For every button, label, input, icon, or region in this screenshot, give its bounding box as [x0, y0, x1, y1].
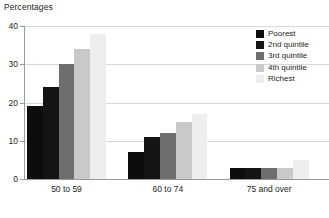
bar: [128, 152, 144, 179]
legend-item[interactable]: 4th quintile: [256, 62, 309, 73]
bar: [144, 137, 160, 179]
y-axis-tick-label: 40: [0, 21, 18, 31]
y-axis-tick-label: 20: [0, 98, 18, 108]
bar: [261, 168, 277, 179]
legend-swatch-icon: [256, 75, 264, 83]
legend-item-label: Richest: [268, 75, 295, 83]
bar-group: [27, 26, 106, 179]
legend-item-label: 3rd quintile: [268, 52, 307, 60]
legend-item-label: Poorest: [268, 30, 296, 38]
x-axis-tick-label: 75 and over: [230, 184, 309, 194]
legend-item[interactable]: 2nd quintile: [256, 39, 309, 50]
x-axis-line: [20, 179, 329, 180]
bar: [59, 64, 75, 179]
bar-group: [128, 26, 207, 179]
legend-swatch-icon: [256, 64, 264, 72]
bar: [277, 168, 293, 179]
bar: [176, 122, 192, 179]
legend-swatch-icon: [256, 41, 264, 49]
y-axis-tick-mark: [20, 64, 25, 65]
bar: [74, 49, 90, 179]
bar: [160, 133, 176, 179]
bar: [245, 168, 261, 179]
bar-chart: Percentages 010203040 Poorest2nd quintil…: [0, 0, 329, 218]
bar: [27, 106, 43, 179]
legend-item-label: 4th quintile: [268, 64, 307, 72]
x-axis-tick-label: 60 to 74: [128, 184, 207, 194]
y-axis-tick-label: 0: [0, 174, 18, 184]
y-axis-tick-mark: [20, 103, 25, 104]
legend-swatch-icon: [256, 30, 264, 38]
y-axis-tick-mark: [20, 26, 25, 27]
y-axis-tick-labels: 010203040: [0, 26, 18, 180]
x-axis-tick-label: 50 to 59: [27, 184, 106, 194]
y-axis-tick-label: 10: [0, 136, 18, 146]
legend-item[interactable]: 3rd quintile: [256, 51, 309, 62]
bar: [90, 34, 106, 179]
legend-item[interactable]: Richest: [256, 74, 309, 85]
bar: [293, 160, 309, 179]
legend-item[interactable]: Poorest: [256, 28, 309, 39]
legend-item-label: 2nd quintile: [268, 41, 309, 49]
bar: [230, 168, 246, 179]
bar: [43, 87, 59, 179]
y-axis-tick-mark: [20, 141, 25, 142]
y-axis-tick-label: 30: [0, 59, 18, 69]
bar: [192, 114, 208, 179]
legend-swatch-icon: [256, 52, 264, 60]
chart-title: Percentages: [4, 2, 53, 12]
y-axis-tick-mark: [20, 179, 25, 180]
chart-legend: Poorest2nd quintile3rd quintile4th quint…: [256, 28, 309, 85]
